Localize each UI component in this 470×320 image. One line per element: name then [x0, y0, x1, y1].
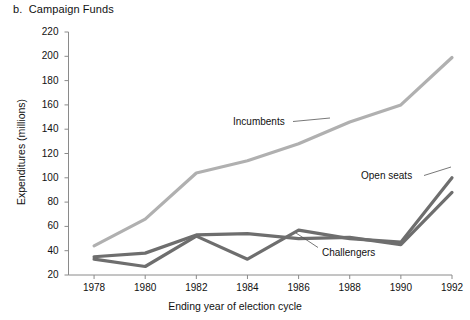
y-tick-label: 100 [27, 173, 59, 183]
y-tick-label: 220 [27, 27, 59, 37]
y-tick-label: 180 [27, 76, 59, 86]
y-tick-label: 60 [27, 221, 59, 231]
y-tick-label: 40 [27, 246, 59, 256]
y-tick-label: 20 [27, 270, 59, 280]
x-tick-label: 1978 [69, 283, 119, 293]
series-line-challengers [94, 192, 452, 256]
x-tick-label: 1990 [376, 283, 426, 293]
x-tick-label: 1992 [427, 283, 470, 293]
campaign-funds-figure: b. Campaign Funds Expenditures (millions… [0, 0, 470, 320]
annotation-leader-open-seats [424, 167, 451, 176]
series-label-incumbents: Incumbents [233, 117, 285, 127]
y-tick-label: 120 [27, 149, 59, 159]
x-tick-label: 1986 [274, 283, 324, 293]
x-tick-label: 1984 [222, 283, 272, 293]
series-label-challengers: Challengers [322, 248, 375, 258]
series-line-incumbents [94, 58, 452, 246]
annotation-leader-incumbents [293, 118, 330, 122]
x-tick-label: 1982 [171, 283, 221, 293]
y-tick-label: 80 [27, 197, 59, 207]
series-label-open-seats: Open seats [361, 171, 412, 181]
line-chart-plot [0, 0, 470, 320]
y-tick-label: 160 [27, 100, 59, 110]
annotation-leader-challengers [296, 233, 318, 248]
y-tick-label: 200 [27, 51, 59, 61]
x-tick-label: 1980 [120, 283, 170, 293]
x-tick-label: 1988 [325, 283, 375, 293]
y-tick-label: 140 [27, 124, 59, 134]
